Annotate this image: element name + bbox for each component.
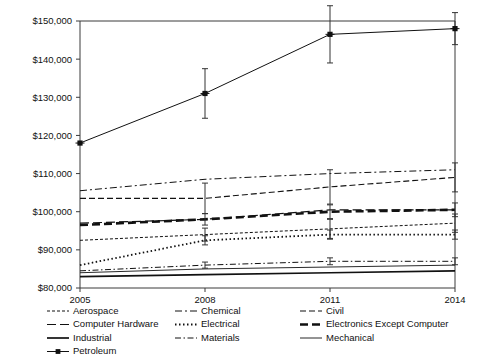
series-line-aerospace <box>80 223 455 240</box>
legend-label: Materials <box>201 332 240 343</box>
y-tick-label: $110,000 <box>33 168 72 179</box>
line-chart: $80,000$90,000$100,000$110,000$120,000$1… <box>0 0 477 359</box>
y-tick-label: $140,000 <box>32 54 72 65</box>
legend-label: Civil <box>326 305 344 316</box>
y-tick-label: $130,000 <box>32 92 72 103</box>
y-tick-label: $90,000 <box>38 244 72 255</box>
legend-label: Electrical <box>201 318 240 329</box>
legend-label: Chemical <box>201 305 241 316</box>
legend-marker <box>56 349 61 354</box>
legend-item-petroleum[interactable]: Petroleum <box>47 345 116 356</box>
errorbar-materials <box>452 258 458 265</box>
series-line-chemical <box>80 170 455 191</box>
series-line-industrial <box>80 271 455 277</box>
series-line-electrical <box>80 235 455 266</box>
legend-label: Computer Hardware <box>73 318 159 329</box>
x-axis-ticks: 2005200820112014 <box>69 288 465 305</box>
legend-label: Industrial <box>73 332 112 343</box>
legend-item-aerospace[interactable]: Aerospace <box>47 305 118 316</box>
legend-item-computer-hardware[interactable]: Computer Hardware <box>47 318 159 329</box>
y-tick-label: $80,000 <box>38 282 72 293</box>
series-line-electronics-except-computer <box>80 210 455 225</box>
series-layer <box>80 29 455 277</box>
legend-label: Mechanical <box>326 332 374 343</box>
legend-item-electrical[interactable]: Electrical <box>175 318 240 329</box>
x-tick-label: 2014 <box>444 294 465 305</box>
marker-layer <box>76 26 460 146</box>
legend-label: Aerospace <box>73 305 118 316</box>
legend-item-mechanical[interactable]: Mechanical <box>300 332 374 343</box>
legend-item-civil[interactable]: Civil <box>300 305 344 316</box>
y-tick-label: $120,000 <box>32 130 72 141</box>
plot-frame <box>80 21 455 288</box>
legend-label: Petroleum <box>73 345 116 356</box>
y-tick-label: $150,000 <box>32 15 72 26</box>
x-tick-label: 2011 <box>320 294 340 305</box>
x-tick-label: 2005 <box>69 294 90 305</box>
legend-item-materials[interactable]: Materials <box>175 332 240 343</box>
axis-lines <box>80 21 455 288</box>
series-line-civil <box>80 177 455 198</box>
chart-legend: AerospaceComputer HardwareIndustrialPetr… <box>47 305 449 357</box>
x-tick-label: 2008 <box>194 294 215 305</box>
y-axis-ticks: $80,000$90,000$100,000$110,000$120,000$1… <box>32 15 80 293</box>
errorbar-electrical <box>452 230 458 239</box>
errorbar-electrical <box>327 230 333 239</box>
chart-container: $80,000$90,000$100,000$110,000$120,000$1… <box>0 0 477 359</box>
legend-label: Electronics Except Computer <box>326 318 449 329</box>
series-line-petroleum <box>80 29 455 143</box>
errorbar-layer <box>202 6 458 268</box>
legend-item-electronics-except-computer[interactable]: Electronics Except Computer <box>300 318 449 329</box>
y-tick-label: $100,000 <box>32 206 72 217</box>
legend-item-chemical[interactable]: Chemical <box>175 305 241 316</box>
legend-item-industrial[interactable]: Industrial <box>47 332 112 343</box>
